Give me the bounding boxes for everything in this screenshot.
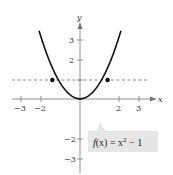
y-tick-label: 2: [69, 56, 74, 65]
function-label: f(x) = x2 − 1: [93, 136, 142, 149]
x-tick-label: 3: [136, 104, 141, 113]
intersection-point: [105, 78, 109, 82]
y-axis-arrow-icon: [78, 22, 83, 29]
function-graph: x y −3 −2 2 3 3 2 −2 −3 f(x) = x2 − 1: [0, 0, 173, 175]
y-tick-label: −3: [64, 155, 76, 164]
y-tick-label: 3: [69, 36, 74, 45]
y-tick-label: −2: [64, 135, 76, 144]
x-axis-arrow-icon: [150, 97, 157, 102]
y-axis-label: y: [76, 13, 82, 22]
x-tick-label: −2: [34, 104, 46, 113]
x-axis-label: x: [158, 95, 163, 104]
intersection-point: [50, 78, 54, 82]
x-tick-label: −3: [14, 104, 26, 113]
x-tick-label: 2: [116, 104, 121, 113]
